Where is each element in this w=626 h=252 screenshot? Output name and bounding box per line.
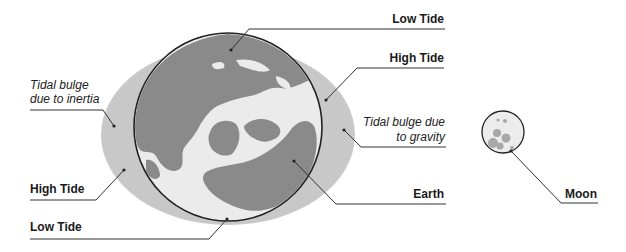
diagram-graphic	[0, 0, 626, 252]
label-low-tide-top: Low Tide	[380, 12, 444, 26]
earth-globe	[134, 33, 322, 221]
label-moon: Moon	[540, 187, 597, 201]
label-high-tide-left: High Tide	[30, 182, 84, 196]
label-bulge-gravity-line1: Tidal bulge due	[346, 115, 445, 129]
tides-diagram: Low Tide High Tide Tidal bulge due to in…	[0, 0, 626, 252]
label-bulge-inertia-line2: due to inertia	[30, 92, 99, 106]
label-bulge-gravity-line2: to gravity	[346, 130, 445, 144]
label-earth: Earth	[380, 187, 444, 201]
label-low-tide-bottom: Low Tide	[30, 220, 82, 234]
label-bulge-inertia-line1: Tidal bulge	[30, 78, 89, 92]
label-high-tide-right: High Tide	[380, 51, 444, 65]
moon-globe	[482, 111, 524, 153]
